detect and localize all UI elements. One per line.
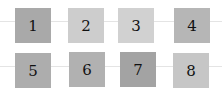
tile-6[interactable]: 6 xyxy=(69,52,105,87)
tile-8[interactable]: 8 xyxy=(173,53,209,88)
tile-2[interactable]: 2 xyxy=(68,8,104,43)
tile-1[interactable]: 1 xyxy=(15,8,51,43)
tile-7[interactable]: 7 xyxy=(120,52,156,87)
tile-5[interactable]: 5 xyxy=(15,53,51,88)
tile-3[interactable]: 3 xyxy=(118,8,154,43)
tile-4[interactable]: 4 xyxy=(174,8,210,43)
